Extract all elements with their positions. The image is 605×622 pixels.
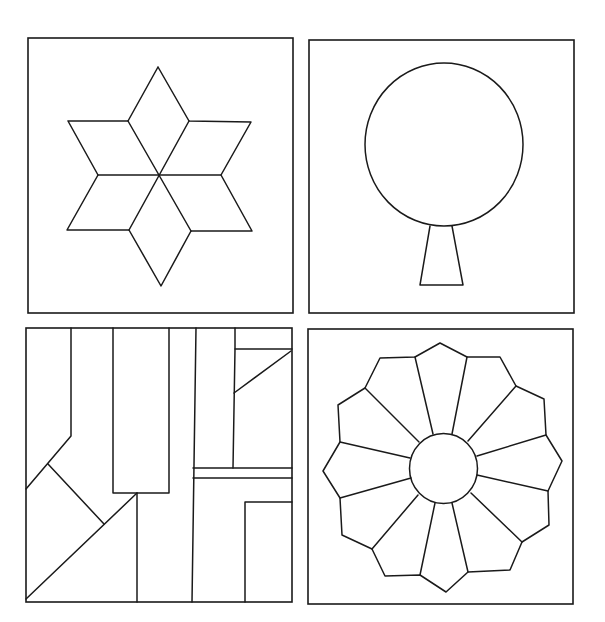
circle-shape [365,63,523,226]
line-segment [234,351,291,393]
line-segment [420,226,463,285]
line-segment [113,328,169,493]
line-segment [365,388,419,442]
line-segment [477,435,546,456]
line-segment [452,503,468,572]
line-segment [192,328,196,602]
line-segment [468,386,516,441]
quilt-blocks-figure [0,0,605,622]
line-segment [415,357,433,434]
line-segment [420,503,435,575]
panel-dresden-plate [308,329,573,604]
panel-tree [309,40,574,313]
line-segment [340,442,410,458]
line-segment [477,475,548,491]
panel-six-point-star [28,38,293,313]
line-segment [471,493,522,542]
line-segment [452,357,467,434]
line-segment [340,478,411,498]
panel-abstract-strips [26,328,292,602]
line-segment [372,495,418,549]
line-segment [323,343,562,592]
line-segment [245,502,292,602]
circle-shape [410,434,478,504]
line-segment [48,464,104,524]
panel-frame [309,40,574,313]
panel-frame [308,329,573,604]
line-segment [26,493,137,599]
